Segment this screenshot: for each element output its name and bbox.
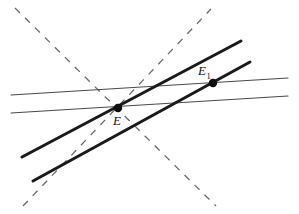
point-E1-label-base: E (197, 63, 206, 78)
figure-canvas: E E1 (0, 0, 299, 214)
point-E-marker (114, 104, 122, 112)
figure-background (0, 0, 299, 214)
point-E-label: E (112, 113, 121, 128)
geometry-figure: E E1 (0, 0, 299, 214)
point-E1-label-subscript: 1 (206, 71, 210, 81)
